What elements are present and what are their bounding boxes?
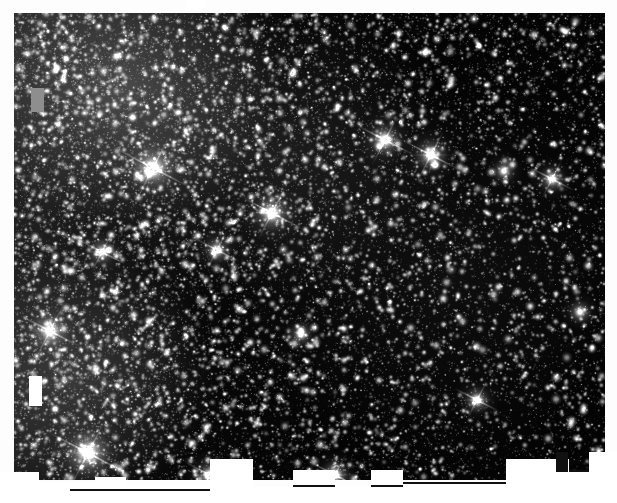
- bottom-edge-notch-1: [39, 483, 95, 503]
- bottom-edge-notch-12: [589, 452, 617, 503]
- plate-edge-scanline-1: [293, 485, 335, 487]
- gray-mask-upper-left: [31, 88, 44, 112]
- white-mask-left: [29, 376, 42, 406]
- bottom-edge-notch-5: [253, 487, 293, 503]
- plate-edge-scanline-3: [403, 482, 506, 484]
- plate-edge-scanline-5: [556, 452, 568, 472]
- plate-edge-scanline-2: [371, 485, 403, 487]
- bottom-edge-notch-11: [569, 472, 589, 503]
- page-root: [0, 0, 617, 503]
- bottom-edge-notch-4: [210, 459, 253, 503]
- bottom-edge-notch-9: [403, 484, 506, 503]
- bottom-edge-notch-7: [335, 486, 371, 503]
- star-field-image[interactable]: [14, 13, 605, 480]
- star-field-canvas: [14, 13, 605, 480]
- plate-edge-scanline-0: [70, 489, 210, 491]
- plate-edge-scanline-4: [569, 470, 589, 472]
- bottom-edge-notch-0: [0, 472, 39, 503]
- top-edge-notch: [186, 0, 206, 13]
